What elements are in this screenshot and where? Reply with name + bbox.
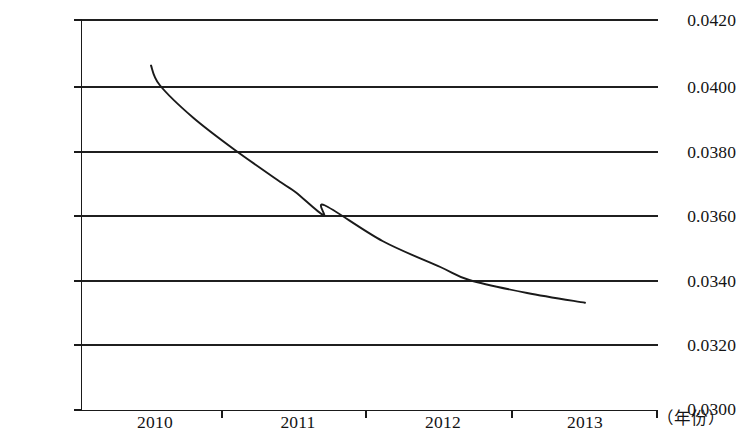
chart-plot-area [0,0,736,435]
y-axis-label-0: 0.0420 [662,12,736,30]
x-axis-label-2010: 2010 [127,414,183,432]
x-axis-unit-label: （年份） [657,411,725,428]
y-axis-label-5: 0.0320 [662,337,736,355]
y-axis-label-1: 0.0400 [662,79,736,97]
line-chart: 0.0420 0.0400 0.0380 0.0360 0.0340 0.032… [0,0,736,435]
gridlines [81,20,658,345]
x-axis-label-2012: 2012 [415,414,471,432]
x-axis-label-2013: 2013 [557,414,613,432]
y-axis-label-2: 0.0380 [662,144,736,162]
data-series-line [151,66,585,303]
x-axis-label-2011: 2011 [270,414,326,432]
y-axis-label-4: 0.0340 [662,273,736,291]
y-axis-label-3: 0.0360 [662,208,736,226]
